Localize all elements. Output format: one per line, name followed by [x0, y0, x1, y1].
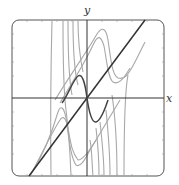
solution-curves-plot: y x [0, 0, 179, 185]
x-axis-label: x [166, 92, 173, 105]
highlighted-solution-curve [62, 75, 108, 122]
y-axis-label: y [83, 4, 91, 17]
